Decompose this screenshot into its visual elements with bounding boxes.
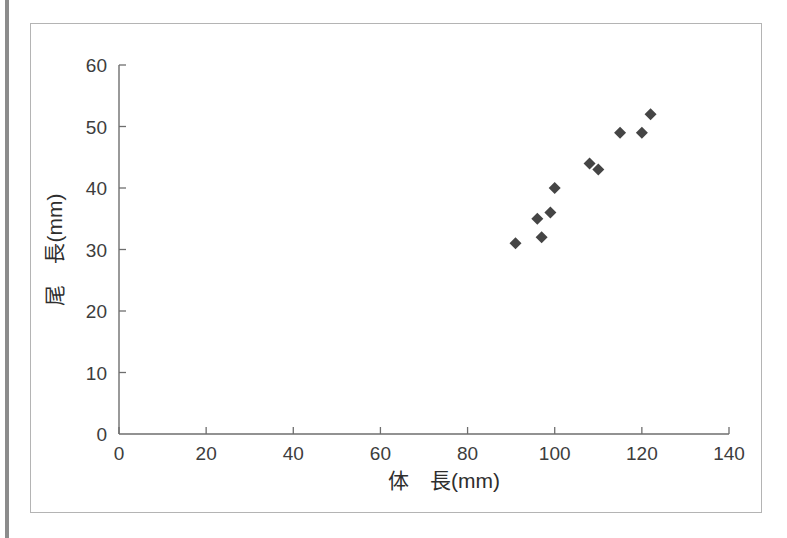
y-tick-label: 20 bbox=[86, 301, 107, 322]
data-point bbox=[544, 207, 556, 219]
y-axis-title: 尾 長(mm) bbox=[43, 194, 66, 306]
data-point bbox=[531, 213, 543, 225]
data-point-group bbox=[510, 108, 657, 249]
y-tick-label: 0 bbox=[96, 424, 107, 445]
y-tick-label: 10 bbox=[86, 363, 107, 384]
data-point bbox=[536, 231, 548, 243]
axis-title-group: 体 長(mm)尾 長(mm) bbox=[43, 194, 500, 492]
x-axis-title: 体 長(mm) bbox=[388, 469, 500, 492]
y-axis-ticks: 0102030405060 bbox=[86, 55, 126, 445]
x-tick-label: 120 bbox=[626, 443, 658, 464]
y-tick-label: 40 bbox=[86, 178, 107, 199]
data-point bbox=[636, 127, 648, 139]
y-tick-label: 50 bbox=[86, 117, 107, 138]
data-point bbox=[614, 127, 626, 139]
y-tick-label: 60 bbox=[86, 55, 107, 76]
x-tick-label: 100 bbox=[539, 443, 571, 464]
scatter-plot: 020406080100120140 0102030405060 体 長(mm)… bbox=[0, 0, 787, 538]
data-point bbox=[510, 237, 522, 249]
chart-axes bbox=[119, 65, 729, 434]
data-point bbox=[549, 182, 561, 194]
x-tick-label: 40 bbox=[283, 443, 304, 464]
x-tick-label: 20 bbox=[196, 443, 217, 464]
data-point bbox=[592, 164, 604, 176]
data-point bbox=[645, 108, 657, 120]
chart-canvas: 020406080100120140 0102030405060 体 長(mm)… bbox=[0, 0, 787, 538]
data-point bbox=[584, 157, 596, 169]
x-axis-ticks: 020406080100120140 bbox=[114, 427, 745, 464]
x-tick-label: 140 bbox=[713, 443, 745, 464]
x-tick-label: 60 bbox=[370, 443, 391, 464]
x-tick-label: 0 bbox=[114, 443, 125, 464]
x-tick-label: 80 bbox=[457, 443, 478, 464]
y-tick-label: 30 bbox=[86, 240, 107, 261]
